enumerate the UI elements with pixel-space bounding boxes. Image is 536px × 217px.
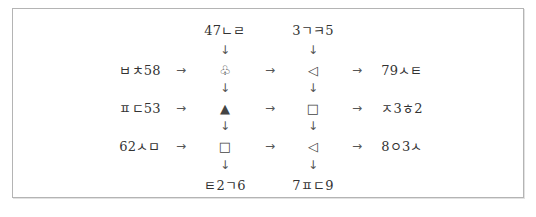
row1-left-label: ㅂㅊ58	[119, 64, 160, 77]
right-arrow-icon: →	[176, 102, 186, 114]
top-label-col2: 3ㄱㅋ5	[292, 24, 333, 37]
square-outline-icon: □	[219, 140, 231, 153]
down-arrow-icon: ↓	[308, 82, 318, 94]
down-arrow-icon: ↓	[220, 159, 230, 171]
row3-right-label: 8ㅇ3ㅅ	[381, 140, 422, 153]
down-arrow-icon: ↓	[308, 44, 318, 56]
down-arrow-icon: ↓	[220, 82, 230, 94]
right-arrow-icon: →	[352, 102, 362, 114]
up-triangle-filled-icon: ▲	[220, 102, 230, 115]
club-outline-icon: ♧	[219, 64, 231, 77]
square-outline-icon: □	[307, 102, 319, 115]
right-arrow-icon: →	[176, 64, 186, 76]
right-arrow-icon: →	[265, 140, 275, 152]
bottom-label-col2: 7ㅍㄷ9	[292, 179, 333, 192]
down-arrow-icon: ↓	[220, 44, 230, 56]
right-arrow-icon: →	[352, 140, 362, 152]
down-arrow-icon: ↓	[308, 159, 318, 171]
left-triangle-outline-icon: ◁	[308, 64, 318, 77]
right-arrow-icon: →	[176, 140, 186, 152]
row2-left-label: ㅍㄷ53	[119, 102, 160, 115]
left-triangle-outline-icon: ◁	[308, 140, 318, 153]
row2-right-label: ㅈ3ㅎ2	[381, 102, 422, 115]
row3-left-label: 62ㅅㅁ	[119, 140, 160, 153]
row1-right-label: 79ㅅㅌ	[381, 64, 422, 77]
down-arrow-icon: ↓	[220, 120, 230, 132]
down-arrow-icon: ↓	[308, 120, 318, 132]
right-arrow-icon: →	[265, 64, 275, 76]
top-label-col1: 47ㄴㄹ	[204, 24, 245, 37]
right-arrow-icon: →	[265, 102, 275, 114]
right-arrow-icon: →	[352, 64, 362, 76]
bottom-label-col1: ㅌ2ㄱ6	[204, 179, 245, 192]
